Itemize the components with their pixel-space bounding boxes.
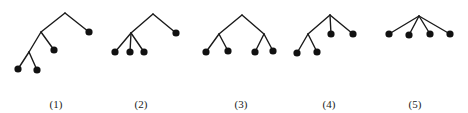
leaf-node	[269, 47, 276, 54]
leaf-node	[251, 48, 258, 55]
tree-edge	[41, 13, 65, 32]
tree-4	[293, 15, 356, 57]
leaf-node	[14, 65, 21, 72]
tree-1	[14, 13, 92, 74]
leaf-node	[33, 66, 40, 73]
tree-edge	[153, 14, 176, 33]
tree-diagram-canvas	[0, 0, 468, 113]
leaf-node	[126, 48, 133, 55]
leaf-node	[446, 30, 453, 37]
tree-2	[111, 14, 179, 56]
leaf-node	[85, 28, 92, 35]
leaf-node	[313, 48, 320, 55]
leaf-node	[224, 47, 231, 54]
leaf-node	[405, 31, 412, 38]
tree-label-1: (1)	[50, 98, 63, 110]
tree-edge	[330, 15, 353, 34]
tree-edge	[65, 13, 89, 32]
tree-label-3: (3)	[235, 98, 248, 110]
tree-5	[385, 16, 453, 39]
leaf-node	[385, 30, 392, 37]
tree-edge	[308, 15, 330, 34]
leaf-node	[50, 46, 57, 53]
tree-edge	[131, 14, 153, 33]
leaf-node	[202, 48, 209, 55]
leaf-node	[293, 49, 300, 56]
tree-edge	[219, 15, 242, 34]
leaf-node	[172, 29, 179, 36]
leaf-node	[111, 48, 118, 55]
leaf-node	[349, 30, 356, 37]
leaf-node	[327, 30, 334, 37]
tree-3	[202, 15, 276, 56]
leaf-node	[140, 48, 147, 55]
tree-edge	[242, 15, 264, 34]
tree-edge	[419, 16, 450, 34]
leaf-node	[426, 30, 433, 37]
tree-label-5: (5)	[409, 98, 422, 110]
tree-label-4: (4)	[323, 98, 336, 110]
tree-edge	[29, 32, 41, 52]
tree-label-2: (2)	[135, 98, 148, 110]
